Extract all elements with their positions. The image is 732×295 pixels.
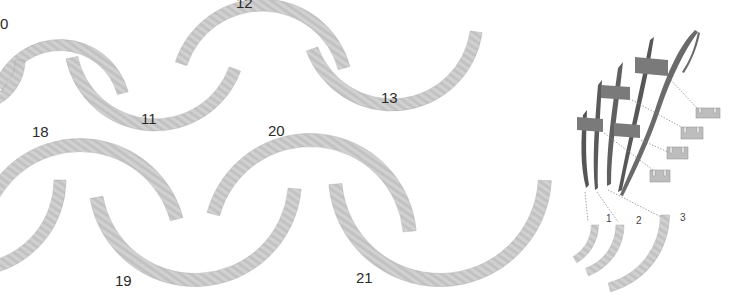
label-10: 0 xyxy=(0,16,8,31)
connector-c xyxy=(667,147,688,159)
exploded-assembly-view xyxy=(573,30,720,292)
label-11: 11 xyxy=(141,111,157,126)
connector-a xyxy=(696,108,720,118)
rib-2 xyxy=(594,80,602,190)
arc-18 xyxy=(0,139,183,221)
label-2: 2 xyxy=(636,216,642,226)
arc-18-lower xyxy=(0,180,66,275)
crossbar-c xyxy=(614,123,640,138)
diagram-artwork xyxy=(0,0,732,295)
arc-12 xyxy=(175,0,349,70)
detail-arc-0 xyxy=(573,225,598,263)
connector-d xyxy=(650,170,670,182)
crossbar-a xyxy=(577,117,603,132)
label-3: 3 xyxy=(680,213,686,223)
rib-diagram: 011121318192021 123 xyxy=(0,0,732,295)
crossbar-b xyxy=(601,85,630,100)
numbered-arc-pieces xyxy=(0,0,551,286)
label-12: 12 xyxy=(236,0,253,10)
label-1: 1 xyxy=(606,214,612,224)
slotted-connectors xyxy=(650,108,720,182)
label-21: 21 xyxy=(356,270,373,285)
label-20: 20 xyxy=(268,123,285,138)
arc-20 xyxy=(207,134,416,232)
label-19: 19 xyxy=(115,273,132,288)
label-18: 18 xyxy=(32,124,49,139)
label-13: 13 xyxy=(381,90,398,105)
connector-b xyxy=(681,127,703,139)
crossbar-d xyxy=(635,57,668,76)
